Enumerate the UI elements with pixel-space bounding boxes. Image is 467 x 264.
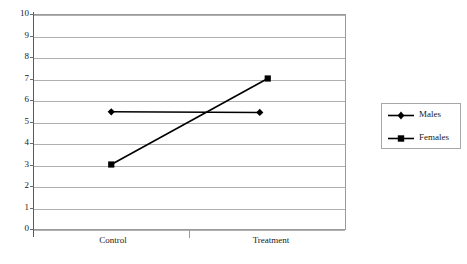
data-point-females-treatment bbox=[265, 75, 271, 81]
series-line-males bbox=[111, 112, 260, 113]
y-tick-label: 9 bbox=[7, 31, 29, 40]
series-line-females bbox=[111, 79, 268, 165]
y-tick-label: 10 bbox=[7, 9, 29, 18]
y-tick-label: 2 bbox=[7, 181, 29, 190]
y-tick-label: 4 bbox=[7, 138, 29, 147]
data-point-males-control bbox=[108, 108, 115, 115]
data-point-males-treatment bbox=[256, 109, 263, 116]
y-tick-label: 1 bbox=[7, 203, 29, 212]
chart-legend: Males Females bbox=[381, 103, 461, 149]
data-point-females-control bbox=[108, 161, 114, 167]
legend-entry-females: Females bbox=[382, 127, 460, 150]
legend-entry-males: Males bbox=[382, 104, 460, 127]
x-axis-tick-divider bbox=[189, 229, 190, 238]
y-tick-label: 3 bbox=[7, 160, 29, 169]
interaction-line-chart: 10 9 8 7 6 5 4 3 2 1 0 Control Treatment bbox=[0, 0, 467, 264]
series-plot-layer bbox=[33, 14, 346, 229]
y-tick-label: 6 bbox=[7, 95, 29, 104]
x-category-label-treatment: Treatment bbox=[226, 236, 316, 245]
legend-label-females: Females bbox=[419, 133, 449, 142]
y-tick-label: 8 bbox=[7, 52, 29, 61]
x-category-label-control: Control bbox=[73, 236, 153, 245]
y-tick-label: 5 bbox=[7, 117, 29, 126]
y-tick-mark bbox=[30, 229, 34, 230]
diamond-marker-icon bbox=[387, 104, 415, 127]
y-tick-label: 0 bbox=[7, 224, 29, 233]
legend-label-males: Males bbox=[419, 110, 441, 119]
y-tick-label: 7 bbox=[7, 74, 29, 83]
square-marker-icon bbox=[387, 127, 415, 150]
